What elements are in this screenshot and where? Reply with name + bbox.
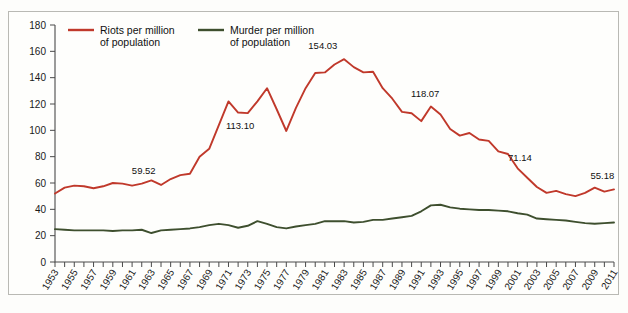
y-tick-label: 100 [29, 125, 46, 136]
legend-label-riots-line2: of population [100, 36, 160, 48]
chart-plot-area: 020406080100120140160180 195319551957195… [0, 0, 628, 313]
x-tick-label: 1957 [78, 267, 99, 292]
x-tick-label: 2007 [560, 267, 581, 292]
line-chart: 020406080100120140160180 195319551957195… [0, 0, 628, 313]
x-tick-label: 1989 [387, 267, 408, 292]
y-tick-label: 140 [29, 72, 46, 83]
x-tick-label: 1981 [309, 267, 330, 292]
x-tick-label: 1987 [367, 267, 388, 292]
x-tick-label: 1969 [194, 267, 215, 292]
chart-screenshot: of public order problems in the state an… [0, 0, 628, 313]
y-tick-label: 180 [29, 20, 46, 31]
data-point-label: 113.10 [226, 120, 254, 131]
axis-lines [55, 25, 614, 262]
y-tick-label: 60 [35, 178, 47, 189]
legend-label-murder-line1: Murder per million [230, 24, 314, 36]
legend: Riots per millionof populationMurder per… [68, 24, 314, 49]
x-tick-label: 1971 [213, 267, 234, 292]
y-tick-label: 120 [29, 99, 46, 110]
y-tick-labels: 020406080100120140160180 [29, 20, 55, 268]
data-series-group [55, 59, 614, 233]
axes-group [55, 25, 614, 262]
x-tick-label: 1977 [271, 267, 292, 292]
x-tick-label: 1955 [59, 267, 80, 292]
x-tick-label: 1979 [290, 267, 311, 292]
data-point-labels: 59.52113.10154.03118.0771.1455.18 [132, 40, 614, 181]
x-tick-label: 2011 [599, 267, 620, 291]
x-tick-label: 1965 [155, 267, 176, 292]
y-tick-label: 0 [40, 257, 46, 268]
data-point-label: 59.52 [132, 165, 156, 176]
y-tick-label: 20 [35, 230, 47, 241]
x-tick-label: 2005 [541, 267, 562, 292]
x-tick-label: 2003 [521, 267, 542, 292]
data-point-label: 55.18 [590, 170, 614, 181]
x-tick-label: 1963 [136, 267, 157, 292]
y-tick-label: 160 [29, 46, 46, 57]
series-line-murder [55, 205, 614, 233]
x-tick-label: 1967 [175, 267, 196, 292]
x-tick-label: 1997 [464, 267, 485, 292]
y-tick-label: 80 [35, 151, 47, 162]
legend-label-riots-line1: Riots per million [100, 24, 175, 36]
x-tick-label: 2009 [579, 267, 600, 292]
x-tick-label: 1983 [329, 267, 350, 292]
data-point-label: 71.14 [508, 152, 532, 163]
data-point-label: 118.07 [411, 88, 439, 99]
x-tick-label: 1991 [406, 267, 427, 292]
x-tick-label: 1995 [444, 267, 465, 292]
data-point-label: 154.03 [308, 40, 337, 51]
legend-label-murder-line2: of population [230, 36, 290, 48]
x-tick-label: 1999 [483, 267, 504, 292]
x-tick-label: 1953 [40, 267, 61, 292]
x-tick-label: 1973 [232, 267, 253, 292]
x-tick-label: 1961 [117, 267, 138, 292]
x-tick-labels: 1953195519571959196119631965196719691971… [40, 262, 620, 292]
x-tick-label: 1985 [348, 267, 369, 292]
x-tick-label: 1993 [425, 267, 446, 292]
x-tick-label: 2001 [502, 267, 523, 292]
x-tick-label: 1959 [97, 267, 118, 292]
y-tick-label: 40 [35, 204, 47, 215]
x-tick-label: 1975 [252, 267, 273, 292]
